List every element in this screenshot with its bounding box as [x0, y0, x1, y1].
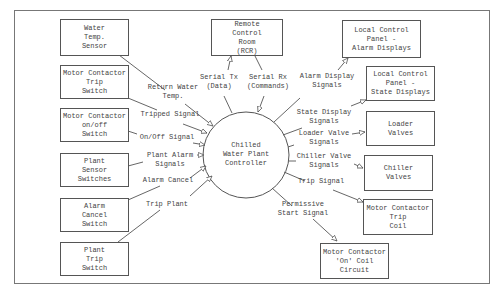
flow-label-plant-alarm-signals: Plant Alarm Signals [142, 151, 198, 169]
box-alarm-cancel-switch: Alarm Cancel Switch [60, 198, 129, 232]
flow-label-state-display-signals: State Display Signals [294, 108, 354, 126]
box-water-temp-sensor: Water Temp. Sensor [60, 19, 129, 56]
flow-label-permissive-start: Permissive Start Signal [275, 200, 331, 218]
flow-label-tripped-signal: Tripped Signal [140, 110, 200, 119]
flow-label-loader-valve-signals: Loader Valve Signals [294, 129, 354, 147]
flow-label-trip-signal: Trip Signal [296, 177, 346, 186]
box-loader-valves: Loader Valves [366, 111, 435, 146]
flow-line-serial-rx [255, 56, 262, 70]
flow-label-alarm-display-signals: Alarm Display Signals [297, 72, 357, 90]
box-motor-contactor-onoff-switch: Motor Contactor on/off Switch [60, 108, 129, 142]
flow-label-alarm-cancel: Alarm Cancel [140, 176, 196, 185]
flow-line-serial-tx [224, 96, 232, 113]
controller-label: Chilled Water Plant Controller [206, 141, 286, 168]
flow-line-alarm-cancel [128, 186, 160, 200]
box-lcp-state-displays: Local Control Panel - State Displays [366, 66, 435, 101]
flow-label-serial-rx: Serial Rx (Commands) [246, 73, 290, 91]
box-chiller-valves: Chiller Valves [364, 155, 433, 191]
box-remote-control-room: Remote Control Room (RCR) [211, 19, 283, 56]
box-plant-trip-switch: Plant Trip Switch [60, 242, 129, 276]
flow-label-trip-plant: Trip Plant [142, 200, 192, 209]
flow-line-onoff [128, 131, 137, 134]
box-motor-contactor-on-coil: Motor Contactor 'On' Coil Circuit [320, 243, 389, 279]
box-plant-sensor-switches: Plant Sensor Switches [60, 153, 129, 187]
box-motor-contactor-trip-switch: Motor Contactor Trip Switch [60, 65, 129, 99]
flow-label-chiller-valve-signals: Chiller Valve Signals [294, 152, 354, 170]
box-motor-contactor-trip-coil: Motor Contactor Trip Coil [363, 199, 433, 235]
box-lcp-alarm-displays: Local Control Panel - Alarm Displays [342, 20, 421, 58]
flow-line-plant-alarm [128, 162, 143, 166]
flow-label-onoff-signal: On/Off Signal [137, 133, 197, 142]
flow-label-return-water-temp: Return Water Temp. [143, 83, 203, 101]
flow-label-serial-tx: Serial Tx (Data) [199, 73, 239, 91]
